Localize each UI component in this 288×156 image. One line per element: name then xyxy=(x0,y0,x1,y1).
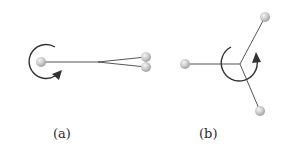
atom xyxy=(141,52,151,62)
arrowhead-icon xyxy=(252,52,261,63)
molecule-rotation-diagram xyxy=(0,0,288,156)
bond-line xyxy=(98,62,146,67)
bond-line xyxy=(240,17,265,64)
bond-line xyxy=(98,57,146,62)
atom xyxy=(180,59,190,69)
bond-line xyxy=(240,64,260,111)
atom xyxy=(36,57,46,67)
arrowhead-icon xyxy=(52,70,62,80)
panel-b xyxy=(180,12,270,116)
panel-a xyxy=(29,45,151,81)
atom xyxy=(141,62,151,72)
atom xyxy=(255,106,265,116)
panel-label-b: (b) xyxy=(199,127,217,140)
atom xyxy=(260,12,270,22)
panel-label-a: (a) xyxy=(53,127,71,140)
